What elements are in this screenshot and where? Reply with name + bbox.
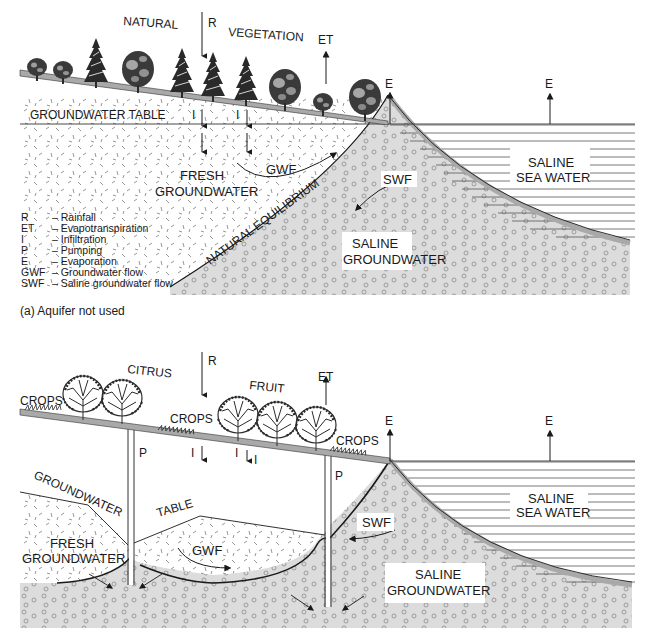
label-sea-water-a-1: SALINE [528, 155, 575, 170]
label-pump-1: P [139, 446, 147, 460]
label-saline-gw-b-1: SALINE [415, 567, 462, 582]
seawater-intrusion-diagram: NATURAL R VEGETATION ET E E GROUNDWATER … [0, 0, 650, 643]
label-sea-water-a-2: SEA WATER [516, 170, 590, 185]
label-gwf-a: GWF [266, 162, 296, 177]
label-groundwater-table: GROUNDWATER TABLE [30, 108, 166, 122]
label-pump-2: P [335, 469, 343, 483]
label-fresh-a-2: GROUNDWATER [155, 184, 258, 199]
label-fresh-a-1: FRESH [180, 168, 224, 183]
label-fresh-b-2: GROUNDWATER [22, 551, 125, 566]
label-gwf-b: GWF [192, 543, 222, 558]
label-table-b: TABLE [155, 496, 195, 520]
label-saline-gw-a-2: GROUNDWATER [343, 252, 446, 267]
label-infiltration-a-1: I [192, 108, 195, 122]
label-crops-right: CROPS [336, 434, 379, 448]
label-infiltration-a-2: I [236, 108, 239, 122]
label-crops-mid: CROPS [170, 412, 213, 426]
label-fruit: FRUIT [249, 378, 286, 396]
label-rainfall-b: R [208, 354, 217, 368]
label-natural: NATURAL [123, 14, 179, 32]
label-fresh-b-1: FRESH [50, 536, 94, 551]
label-et-b: ET [318, 370, 334, 384]
label-saline-gw-b-2: GROUNDWATER [387, 583, 490, 598]
label-sea-water-b-2: SEA WATER [516, 505, 590, 520]
label-crops-left: CROPS [20, 394, 63, 408]
label-e-sea-b: E [545, 414, 553, 428]
label-vegetation: VEGETATION [228, 25, 304, 44]
label-et-a: ET [318, 33, 334, 47]
label-swf-a: SWF [383, 172, 412, 187]
caption-panel-a: (a) Aquifer not used [20, 304, 125, 318]
label-infiltration-b-3: I [254, 453, 257, 467]
legend-desc-swf: – Saline groundwater flow [52, 277, 173, 289]
label-e-sea-a: E [545, 77, 553, 91]
panel-a: NATURAL R VEGETATION ET E E GROUNDWATER … [20, 12, 635, 318]
label-sea-water-b-1: SALINE [528, 491, 575, 506]
panel-b: CROPS CITRUS R CROPS FRUIT ET CROPS E E … [20, 352, 635, 628]
label-infiltration-b-1: I [191, 446, 194, 460]
label-swf-b: SWF [362, 515, 391, 530]
label-infiltration-b-2: I [235, 446, 238, 460]
label-rainfall-a: R [208, 16, 217, 30]
label-e-shore-a: E [385, 77, 393, 91]
label-e-shore-b: E [385, 414, 393, 428]
legend-abbr-swf: SWF [21, 277, 44, 289]
label-citrus: CITRUS [127, 362, 173, 381]
label-saline-gw-a-1: SALINE [352, 236, 399, 251]
